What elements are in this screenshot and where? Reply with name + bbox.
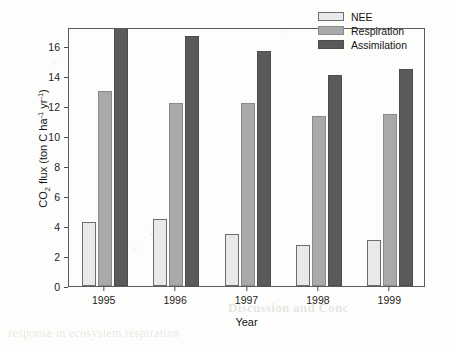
bar-nee-1997[interactable] [225, 234, 239, 286]
x-axis-tick-mark [175, 287, 176, 291]
x-axis-tick-1995: 1995 [92, 287, 115, 306]
x-axis-tick-1996: 1996 [163, 287, 186, 306]
x-axis-tick-label: 1996 [163, 294, 186, 306]
y-axis-tick-mark [64, 137, 68, 138]
y-axis-tick-label: 4 [54, 221, 64, 233]
y-axis-tick-label: 10 [48, 131, 64, 143]
bar-respiration-1995[interactable] [98, 91, 112, 286]
legend-label-assimilation: Assimilation [351, 39, 407, 51]
y-axis-tick-mark [64, 197, 68, 198]
bar-assimilation-1998[interactable] [328, 75, 342, 286]
bar-nee-1996[interactable] [153, 219, 167, 286]
x-axis-tick-mark [317, 287, 318, 291]
bar-respiration-1996[interactable] [169, 103, 183, 286]
y-axis-tick-label: 6 [54, 191, 64, 203]
x-axis-title: Year [68, 316, 425, 328]
bar-assimilation-1999[interactable] [399, 69, 413, 286]
y-axis: 0246810121416 [0, 28, 68, 287]
x-axis-tick-label: 1999 [378, 294, 401, 306]
bar-assimilation-1995[interactable] [114, 28, 128, 286]
legend-swatch-nee-icon [318, 12, 344, 21]
legend-swatch-respiration-icon [318, 26, 344, 35]
y-axis-tick-label: 8 [54, 161, 64, 173]
bar-nee-1999[interactable] [367, 240, 381, 286]
bar-assimilation-1996[interactable] [185, 36, 199, 286]
x-axis-tick-1998: 1998 [306, 287, 329, 306]
legend-label-nee: NEE [351, 11, 373, 23]
bar-nee-1995[interactable] [82, 222, 96, 286]
y-axis-tick-label: 16 [48, 41, 64, 53]
bar-assimilation-1997[interactable] [257, 51, 271, 286]
x-axis-tick-mark [246, 287, 247, 291]
y-axis-tick-mark [64, 167, 68, 168]
bar-nee-1998[interactable] [296, 245, 310, 286]
legend-item-nee[interactable]: NEE [318, 10, 407, 23]
y-axis-tick-mark [64, 257, 68, 258]
y-axis-tick-mark [64, 227, 68, 228]
bars-container [69, 29, 424, 286]
legend-item-respiration[interactable]: Respiration [318, 24, 407, 37]
bar-respiration-1998[interactable] [312, 116, 326, 286]
x-axis-tick-1997: 1997 [235, 287, 258, 306]
y-axis-tick-mark [64, 47, 68, 48]
legend-item-assimilation[interactable]: Assimilation [318, 38, 407, 51]
y-axis-tick-label: 0 [54, 281, 64, 293]
x-axis-tick-mark [389, 287, 390, 291]
y-axis-tick-label: 14 [48, 71, 64, 83]
x-axis: 19951996199719981999 [68, 287, 425, 317]
x-axis-tick-label: 1997 [235, 294, 258, 306]
plot-area [68, 28, 425, 287]
x-axis-tick-mark [103, 287, 104, 291]
co2-flux-grouped-bar-chart: CO2 flux (ton C ha-1 yr-1) 0246810121416… [0, 0, 449, 345]
y-axis-tick-label: 2 [54, 251, 64, 263]
bar-respiration-1997[interactable] [241, 103, 255, 286]
y-axis-tick-mark [64, 107, 68, 108]
x-axis-tick-1999: 1999 [378, 287, 401, 306]
y-axis-tick-label: 12 [48, 101, 64, 113]
y-axis-tick-mark [64, 77, 68, 78]
legend-label-respiration: Respiration [351, 25, 404, 37]
chart-legend: NEE Respiration Assimilation [318, 10, 407, 52]
x-axis-tick-label: 1995 [92, 294, 115, 306]
x-axis-tick-label: 1998 [306, 294, 329, 306]
bar-respiration-1999[interactable] [383, 114, 397, 286]
legend-swatch-assimilation-icon [318, 40, 344, 49]
